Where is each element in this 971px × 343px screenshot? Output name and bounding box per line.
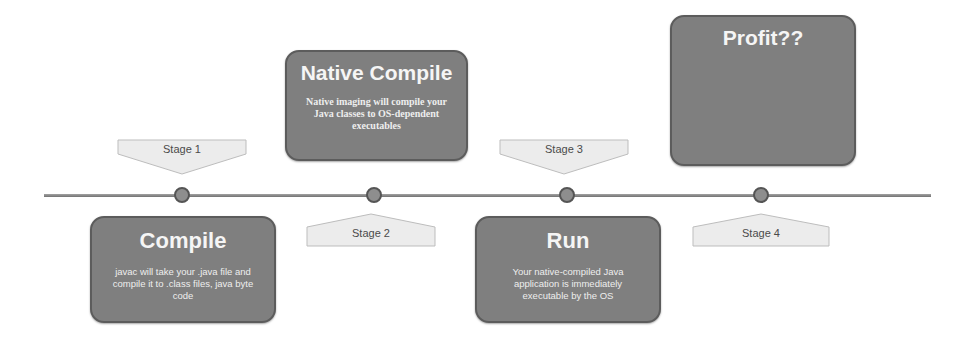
stage-2-card: Native Compile Native imaging will compi… (285, 50, 468, 161)
stage-2-description: Native imaging will compile your Java cl… (301, 96, 452, 132)
stage-1-description: javac will take your .java file and comp… (106, 266, 260, 302)
timeline-dot-stage-2 (366, 187, 382, 203)
stage-3-label: Stage 3 (499, 139, 629, 175)
timeline-dot-stage-1 (174, 187, 190, 203)
stage-2-text: Stage 2 (306, 227, 436, 239)
stage-3-text: Stage 3 (499, 143, 629, 155)
stage-4-card: Profit?? (670, 15, 856, 166)
stage-1-label: Stage 1 (117, 139, 247, 175)
stage-2-title: Native Compile (287, 60, 466, 86)
stage-4-title: Profit?? (672, 25, 854, 51)
stage-1-text: Stage 1 (117, 143, 247, 155)
timeline-dot-stage-4 (753, 187, 769, 203)
stage-4-label: Stage 4 (692, 213, 830, 247)
stage-2-label: Stage 2 (306, 213, 436, 247)
stage-3-description: Your native-compiled Java application is… (497, 266, 639, 302)
stage-1-title: Compile (92, 228, 274, 254)
timeline-dot-stage-3 (559, 187, 575, 203)
stage-1-card: Compile javac will take your .java file … (90, 216, 276, 323)
stage-3-title: Run (477, 228, 659, 254)
stage-4-text: Stage 4 (692, 227, 830, 239)
stage-3-card: Run Your native-compiled Java applicatio… (475, 216, 661, 323)
